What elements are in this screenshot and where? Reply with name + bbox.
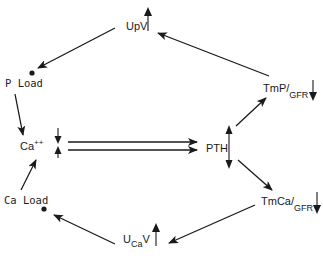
dot-icon	[29, 70, 34, 75]
node-tmca-gfr: TmCa/GFR	[261, 192, 321, 214]
node-upv: UpV	[126, 7, 152, 32]
edge-tmp-gfr-to-upv	[158, 33, 269, 76]
tmca-gfr-label: TmCa/GFR	[261, 195, 313, 213]
node-u-ca-v: UCaV	[123, 223, 160, 249]
edge-tmca-gfr-to-u-ca-v	[169, 205, 255, 243]
arrow-up-icon	[55, 146, 62, 158]
arrow-down-icon	[313, 192, 321, 214]
node-ca-load: Ca Load	[4, 194, 48, 212]
ca-label: Ca++	[20, 138, 44, 152]
edge-pth-to-tmp-gfr	[236, 98, 266, 126]
calcium-phosphate-pth-feedback-diagram: UpV P Load Ca++ Ca Load UCaV	[0, 0, 323, 267]
arrow-down-icon	[55, 128, 62, 144]
upv-label: UpV	[126, 20, 148, 32]
edge-u-ca-v-to-ca-load	[54, 215, 115, 244]
edge-pth-to-tmca-gfr	[238, 160, 272, 190]
edge-upv-to-p-load	[38, 28, 115, 68]
edge-ca-load-to-ca	[21, 160, 36, 190]
node-ca: Ca++	[20, 128, 62, 158]
ca-load-label: Ca Load	[4, 194, 48, 206]
edge-p-load-to-ca	[15, 94, 23, 135]
node-pth: PTH	[206, 125, 233, 169]
node-p-load: P Load	[5, 70, 43, 89]
arrow-up-icon	[152, 223, 160, 246]
pth-label: PTH	[206, 142, 228, 154]
arrow-down-icon	[309, 80, 317, 101]
p-load-label: P Load	[5, 77, 43, 89]
dot-icon	[41, 206, 46, 211]
edge-ca-to-pth	[68, 142, 197, 150]
tmp-gfr-label: TmP/GFR	[263, 82, 309, 100]
node-tmp-gfr: TmP/GFR	[263, 80, 317, 101]
u-ca-v-label: UCaV	[123, 233, 150, 249]
